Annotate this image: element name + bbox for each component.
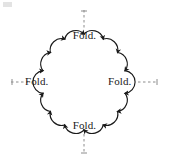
fold-label-left: Fold. bbox=[25, 76, 48, 87]
fold-label-bottom: Fold. bbox=[0, 120, 169, 131]
petal-arc bbox=[118, 93, 128, 111]
petal-arc bbox=[41, 93, 51, 111]
scalloped-fold-figure: Fold. Fold. Fold. Fold. bbox=[0, 0, 169, 164]
fold-label-top: Fold. bbox=[0, 30, 169, 41]
petal-arc bbox=[41, 53, 51, 71]
petal-arc bbox=[118, 53, 128, 71]
fold-label-right: Fold. bbox=[108, 76, 131, 87]
